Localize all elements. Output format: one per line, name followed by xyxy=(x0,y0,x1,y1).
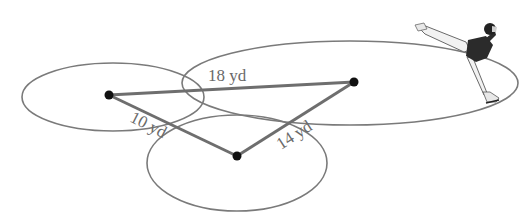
segment-left-to-bottom xyxy=(109,95,237,156)
point-right-center xyxy=(350,78,359,87)
label-18-yd: 18 yd xyxy=(208,66,247,85)
skating-diagram: 18 yd 10 yd 14 yd xyxy=(0,0,530,219)
point-bottom-center xyxy=(233,152,242,161)
figure-skater-icon xyxy=(415,23,499,103)
point-left-center xyxy=(105,91,114,100)
